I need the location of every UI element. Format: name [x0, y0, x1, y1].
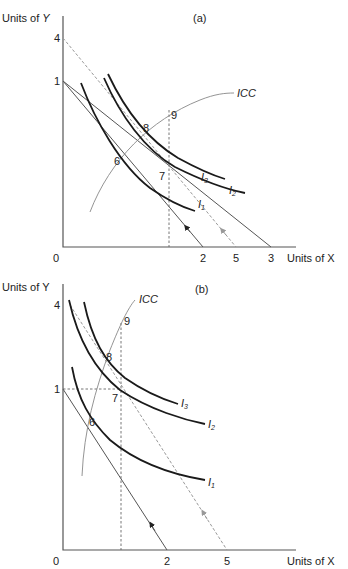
indifference-curve-i1-a	[81, 83, 195, 211]
budget-line-2-a	[63, 81, 271, 247]
panel-tag-b: (b)	[195, 283, 208, 295]
point-8-b: 8	[106, 351, 112, 363]
x-tick-5-a: 5	[233, 252, 239, 264]
x-tick-3-a: 3	[268, 252, 274, 264]
icc-label-b: ICC	[139, 293, 158, 305]
point-9-a: 9	[171, 109, 177, 121]
x-axis-label-b: Units of X	[287, 555, 335, 567]
curve-label-i2-a: I2	[229, 184, 236, 197]
budget-line-1-b	[63, 389, 167, 550]
curve-label-i1-b: I1	[208, 476, 215, 489]
point-7-a: 7	[159, 170, 165, 182]
indifference-curve-i3-b	[84, 302, 178, 404]
point-6-b: 6	[89, 416, 95, 428]
x-tick-5-b: 5	[224, 555, 230, 567]
budget-line-1-a	[63, 81, 203, 247]
y-tick-1-a: 1	[54, 75, 60, 87]
axes-a	[63, 16, 296, 247]
y-axis-label-b: Units of Y	[2, 281, 50, 293]
y-tick-4-a: 4	[54, 32, 60, 44]
y-axis-label-a: Units of Y	[2, 12, 50, 24]
point-7-b: 7	[112, 392, 118, 404]
budget-line-compensated-a	[63, 38, 236, 247]
origin-label-b: 0	[53, 555, 59, 567]
diagram-canvas: Units of Y (a) 4 1 0 2 5 3 Units of X IC…	[0, 0, 348, 569]
arrow-icon	[151, 524, 155, 531]
point-9-b: 9	[124, 315, 130, 327]
panel-tag-a: (a)	[193, 12, 206, 24]
curve-label-i1-a: I1	[198, 198, 205, 211]
icc-curve-a	[90, 93, 234, 212]
curve-label-i2-b: I2	[208, 418, 215, 431]
point-8-a: 8	[143, 122, 149, 134]
icc-label-a: ICC	[237, 87, 256, 99]
x-tick-2-b: 2	[164, 555, 170, 567]
panel-b: Units of Y (b) 4 1 0 2 5 Units of X ICC …	[2, 281, 335, 567]
indifference-curve-i2-a	[104, 78, 245, 193]
point-6-a: 6	[114, 155, 120, 167]
x-tick-2-a: 2	[200, 252, 206, 264]
arrow-icon	[186, 227, 190, 232]
curve-label-i3-b: I3	[181, 397, 188, 410]
x-axis-label-a: Units of X	[287, 252, 335, 264]
y-tick-4-b: 4	[54, 299, 60, 311]
y-tick-1-b: 1	[54, 383, 60, 395]
origin-label-a: 0	[53, 252, 59, 264]
panel-a: Units of Y (a) 4 1 0 2 5 3 Units of X IC…	[2, 12, 335, 264]
